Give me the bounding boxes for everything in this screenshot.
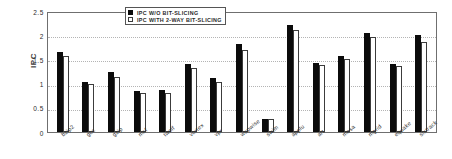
y-axis-tick-label: 2.5: [14, 9, 44, 16]
y-axis-tick-label: 1: [14, 81, 44, 88]
bar: [216, 82, 222, 132]
bar: [421, 42, 427, 132]
bar-group: [134, 13, 146, 132]
bar: [293, 30, 299, 132]
bar: [88, 84, 94, 132]
chart-figure: IPC 2.521.510.50 bzip2gccgzipmcftwolfvor…: [0, 0, 452, 159]
plot-area: [47, 12, 437, 133]
legend-item-label: IPC W/O BIT-SLICING: [137, 10, 198, 16]
filled-square-icon: [128, 10, 133, 15]
bar: [242, 50, 248, 132]
bar-group: [82, 13, 94, 132]
bar: [319, 65, 325, 132]
bar-groups: [48, 13, 436, 132]
bar-group: [236, 13, 248, 132]
bar: [370, 37, 376, 132]
bar-group: [57, 13, 69, 132]
bar: [396, 66, 402, 132]
bar: [191, 68, 197, 132]
bar-group: [390, 13, 402, 132]
bar-group: [364, 13, 376, 132]
y-axis-tick-label: 1.5: [14, 57, 44, 64]
y-axis-tick-labels: 2.521.510.50: [10, 0, 44, 159]
legend-item: IPC WITH 2-WAY BIT-SLICING: [128, 16, 222, 23]
legend-item: IPC W/O BIT-SLICING: [128, 9, 222, 16]
bar-group: [313, 13, 325, 132]
bar-group: [262, 13, 274, 132]
y-axis-tick-label: 0.5: [14, 105, 44, 112]
bar: [344, 59, 350, 132]
bar-group: [287, 13, 299, 132]
chart-legend: IPC W/O BIT-SLICING IPC WITH 2-WAY BIT-S…: [125, 7, 226, 25]
bar-group: [210, 13, 222, 132]
y-axis-tick-label: 0: [14, 130, 44, 137]
bar-group: [415, 13, 427, 132]
bar-group: [108, 13, 120, 132]
bar-group: [185, 13, 197, 132]
bar: [114, 77, 120, 132]
bar-group: [338, 13, 350, 132]
x-axis-tick-labels: bzip2gccgzipmcftwolfvortexvprwupwiseswim…: [47, 133, 437, 159]
bar-group: [159, 13, 171, 132]
open-square-icon: [128, 17, 133, 22]
y-axis-tick-label: 2: [14, 33, 44, 40]
legend-item-label: IPC WITH 2-WAY BIT-SLICING: [137, 17, 222, 23]
bar: [63, 56, 69, 132]
